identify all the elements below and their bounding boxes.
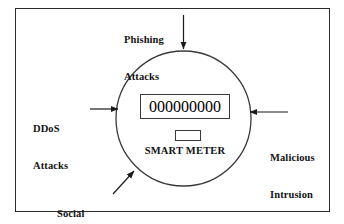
threat-label-ddos: DDoS Attacks [33, 99, 68, 197]
threat-label-phishing-line-1: Phishing [124, 34, 164, 46]
threat-label-malicious-intrusion-line-2: Intrusion [270, 189, 315, 201]
threat-label-social-engineering: Social Engg Attacks [57, 184, 118, 224]
threat-label-ddos-line-2: Attacks [33, 160, 68, 172]
meter-caption: SMART METER [133, 145, 237, 156]
threat-label-phishing-line-2: Attacks [124, 71, 164, 83]
threat-label-phishing: Phishing Attacks [124, 10, 164, 108]
meter-indicator-box [175, 130, 201, 141]
diagram-canvas: 000000000 SMART METER Phishing Attacks D… [0, 0, 344, 224]
threat-label-social-engineering-line-1: Social [57, 208, 118, 220]
threat-label-malicious-intrusion-line-1: Malicious [270, 152, 315, 164]
threat-label-malicious-intrusion: Malicious Intrusion Attacks [270, 128, 315, 224]
threat-label-ddos-line-1: DDoS [33, 123, 68, 135]
